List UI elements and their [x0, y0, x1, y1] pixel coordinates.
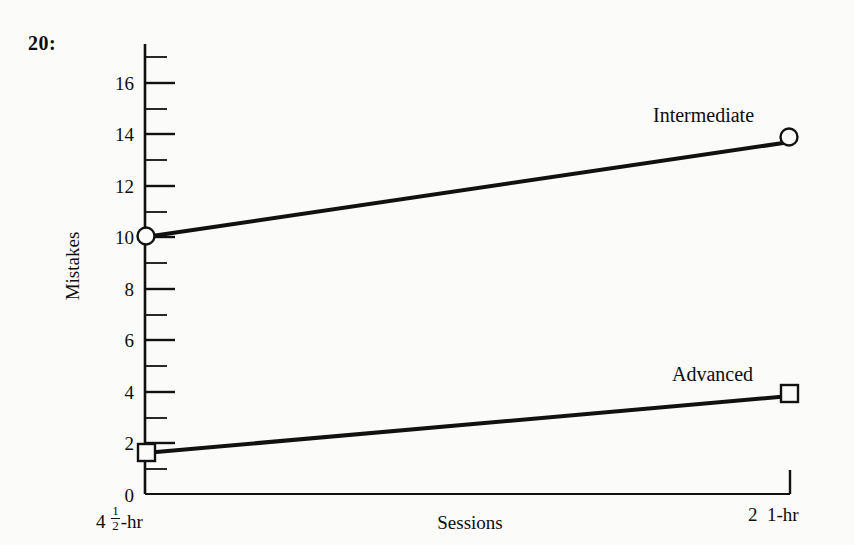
series-line-intermediate — [145, 142, 790, 237]
data-point-intermediate-end — [781, 129, 798, 146]
figure-container: 20: Mistakes Sessions 16 14 12 10 8 6 4 … — [0, 0, 854, 545]
series-line-advanced — [145, 396, 790, 453]
plot-area — [0, 0, 854, 545]
data-point-advanced-end — [781, 385, 798, 402]
data-point-intermediate-start — [138, 228, 155, 245]
data-point-advanced-start — [138, 444, 155, 461]
y-axis-minor-ticks — [145, 57, 167, 469]
